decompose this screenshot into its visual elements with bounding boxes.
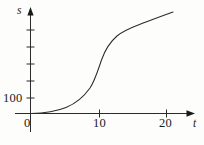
graph-figure: 100 0 10 20 s t <box>0 0 204 145</box>
x-axis-arrowhead <box>187 110 196 116</box>
x-axis-tick-label-10: 10 <box>93 117 106 130</box>
x-axis-tick-label-0: 0 <box>24 117 30 130</box>
growth-curve <box>31 12 173 114</box>
y-axis-arrowhead <box>27 7 33 16</box>
y-axis-tick-label-100: 100 <box>3 92 22 105</box>
x-axis-tick-label-20: 20 <box>159 117 172 130</box>
y-axis-label: s <box>17 5 21 17</box>
x-axis-label: t <box>193 118 196 130</box>
